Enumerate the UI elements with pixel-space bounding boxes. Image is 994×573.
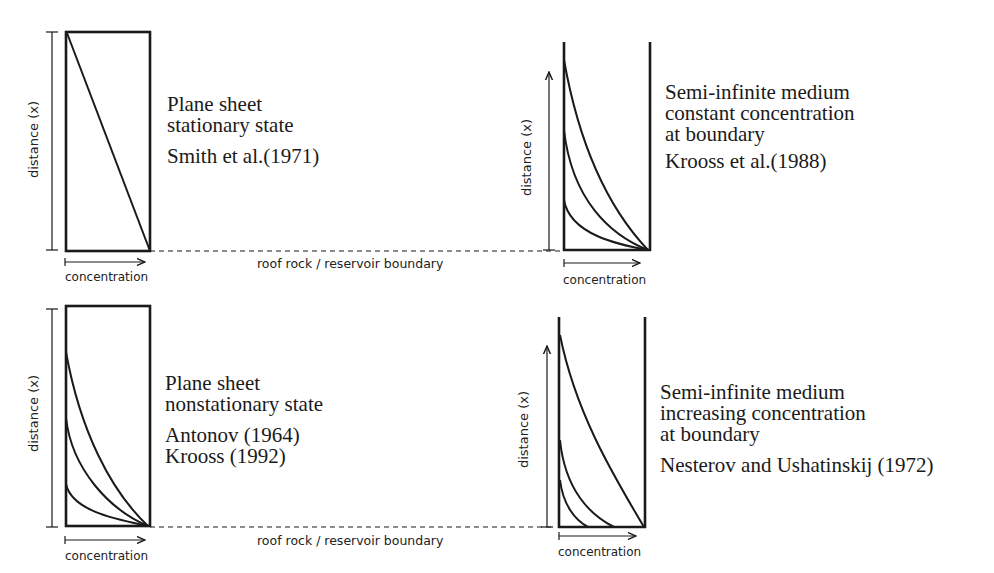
- profile-curve-2: [560, 440, 614, 527]
- caption-reference: Krooss et al.(1988): [665, 151, 855, 172]
- y-axis-label: distance (x): [519, 113, 534, 203]
- caption-plane-sheet-nonstationary: Plane sheet nonstationary state Antonov …: [165, 373, 323, 467]
- caption-title-line: Semi-infinite medium: [660, 382, 934, 403]
- x-axis-label: concentration: [65, 549, 148, 563]
- caption-reference: Antonov (1964): [165, 425, 323, 446]
- caption-reference: Smith et al.(1971): [167, 146, 319, 167]
- x-axis-label: concentration: [563, 273, 646, 287]
- caption-title-line: Plane sheet: [165, 373, 323, 394]
- profile-curve-3: [564, 200, 648, 250]
- panel-plane-sheet-stationary: [46, 32, 150, 266]
- caption-title-line: Plane sheet: [167, 94, 319, 115]
- caption-title-line: nonstationary state: [165, 394, 323, 415]
- caption-title-line: increasing concentration: [660, 403, 934, 424]
- linear-profile: [67, 33, 150, 251]
- caption-title-line: stationary state: [167, 115, 319, 136]
- caption-semi-infinite-increasing: Semi-infinite medium increasing concentr…: [660, 382, 934, 476]
- y-axis-label: distance (x): [26, 95, 41, 185]
- caption-semi-infinite-constant: Semi-infinite medium constant concentrat…: [665, 82, 855, 172]
- caption-title-line: at boundary: [665, 124, 855, 145]
- panel-plane-sheet-nonstationary: [46, 306, 150, 544]
- caption-reference: Nesterov and Ushatinskij (1972): [660, 455, 934, 476]
- boundary-label-bottom: roof rock / reservoir boundary: [257, 533, 443, 548]
- x-axis-label: concentration: [558, 545, 641, 559]
- plane-sheet-box: [66, 306, 150, 526]
- panel-semi-infinite-constant: [543, 42, 651, 267]
- y-axis-label: distance (x): [26, 369, 41, 459]
- boundary-label-top: roof rock / reservoir boundary: [257, 256, 443, 271]
- caption-title-line: Semi-infinite medium: [665, 82, 855, 103]
- caption-plane-sheet-stationary: Plane sheet stationary state Smith et al…: [167, 94, 319, 167]
- x-axis-label: concentration: [65, 270, 148, 284]
- caption-title-line: constant concentration: [665, 103, 855, 124]
- profile-curve-1: [560, 335, 644, 527]
- caption-reference: Krooss (1992): [165, 446, 323, 467]
- y-axis-label: distance (x): [516, 385, 531, 475]
- caption-title-line: at boundary: [660, 424, 934, 445]
- panel-semi-infinite-increasing: [541, 317, 646, 540]
